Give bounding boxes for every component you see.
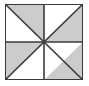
- pinwheel-diagram: [5, 4, 83, 80]
- pinwheel-square: [5, 4, 83, 80]
- division-lines: [5, 4, 83, 80]
- figure-canvas: [0, 0, 89, 86]
